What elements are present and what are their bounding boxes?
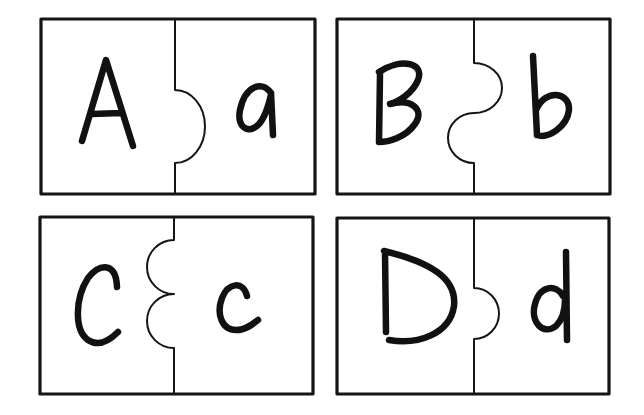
card-d-lowercase-piece[interactable]: d	[534, 252, 567, 340]
letter-d-lower	[534, 252, 567, 340]
card-d-joint	[474, 218, 499, 394]
letter-C-upper	[78, 267, 118, 343]
card-b-joint	[448, 19, 502, 194]
card-d-uppercase-piece[interactable]: D	[384, 251, 454, 341]
card-c-uppercase-piece[interactable]: C	[78, 267, 118, 343]
puzzle-card-d[interactable]: D d	[337, 218, 609, 394]
card-a-uppercase-piece[interactable]: A	[82, 60, 133, 146]
card-b-lowercase-piece[interactable]: b	[533, 56, 569, 136]
letter-A-upper	[82, 60, 133, 146]
letter-a-lower	[239, 86, 273, 135]
puzzle-card-c[interactable]: C c	[40, 217, 313, 394]
letter-b-lower	[533, 56, 569, 136]
puzzle-card-b[interactable]: B b	[337, 19, 610, 194]
card-a-lowercase-piece[interactable]: a	[239, 86, 273, 135]
card-c-joint	[147, 217, 174, 394]
letter-c-lower	[220, 285, 258, 330]
card-b-uppercase-piece[interactable]: B	[379, 64, 419, 142]
puzzle-worksheet: A a B b C c	[0, 0, 644, 415]
card-a-joint	[175, 19, 205, 194]
letter-B-upper	[379, 64, 419, 142]
puzzle-card-a[interactable]: A a	[41, 19, 315, 194]
letter-D-upper	[384, 251, 454, 341]
card-c-lowercase-piece[interactable]: c	[220, 285, 258, 330]
